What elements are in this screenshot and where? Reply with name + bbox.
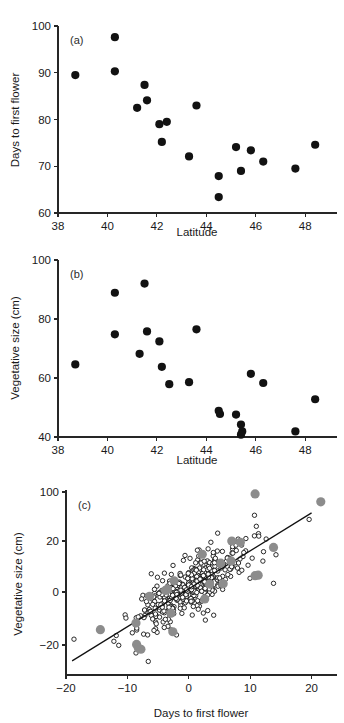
- data-point-open: [163, 617, 167, 621]
- data-point: [216, 410, 224, 418]
- data-point-gray: [236, 538, 245, 547]
- data-point-open: [217, 576, 221, 580]
- y-tick-label: 40: [38, 431, 51, 443]
- data-point: [71, 360, 79, 368]
- data-point-open: [196, 607, 200, 611]
- data-point-open: [202, 559, 206, 563]
- data-point-open: [179, 573, 183, 577]
- data-point-open: [160, 579, 164, 583]
- data-point: [192, 325, 200, 333]
- data-point: [215, 193, 223, 201]
- data-point-gray: [200, 594, 209, 603]
- data-point: [143, 96, 151, 104]
- data-point-open: [170, 593, 174, 597]
- y-tick-label: −20: [39, 639, 59, 651]
- data-point-open: [186, 576, 190, 580]
- data-point: [232, 143, 240, 151]
- data-point: [111, 330, 119, 338]
- data-point: [136, 350, 144, 358]
- data-point-open: [72, 637, 76, 641]
- data-point-open: [189, 599, 193, 603]
- data-point-open: [130, 631, 134, 635]
- data-point-open: [206, 608, 210, 612]
- y-tick-label: 70: [38, 160, 51, 172]
- data-point-open: [188, 556, 192, 560]
- data-point: [185, 378, 193, 386]
- data-point-open: [207, 566, 211, 570]
- data-point-open: [274, 553, 278, 557]
- data-point-open: [201, 611, 205, 615]
- data-point-open: [182, 606, 186, 610]
- panel-a-y-axis-title: Days to first flower: [9, 73, 21, 168]
- data-point-open: [190, 613, 194, 617]
- data-point-open: [112, 639, 116, 643]
- data-point-open: [146, 659, 150, 663]
- panel-c-y-ticks: −20020100: [39, 486, 66, 651]
- data-point-gray: [216, 559, 225, 568]
- x-tick-label: 40: [101, 444, 114, 456]
- data-point: [143, 327, 151, 335]
- data-point: [140, 81, 148, 89]
- y-tick-label: 100: [32, 20, 51, 32]
- data-point-open: [246, 563, 250, 567]
- y-tick-label: 90: [38, 67, 51, 79]
- data-point-open: [206, 547, 210, 551]
- data-point-gray: [145, 592, 154, 601]
- data-point-gray: [316, 497, 325, 506]
- data-point-gray: [254, 571, 263, 580]
- data-point: [237, 421, 245, 429]
- data-point-open: [261, 549, 265, 553]
- data-point: [259, 157, 267, 165]
- data-point-gray: [166, 609, 175, 618]
- data-point: [158, 138, 166, 146]
- panel-a-y-ticks: 60708090100: [32, 20, 58, 219]
- data-point-gray: [169, 576, 178, 585]
- panel-c-svg: −20020100 −20−1001020 (c) Days to first …: [0, 472, 344, 723]
- panel-b-y-ticks: 406080100: [32, 254, 58, 443]
- data-point: [155, 337, 163, 345]
- data-point: [163, 118, 171, 126]
- x-tick-label: −20: [56, 682, 76, 694]
- data-point: [237, 431, 245, 439]
- data-point-open: [254, 524, 258, 528]
- x-tick-label: 42: [151, 220, 164, 232]
- data-point-open: [117, 643, 121, 647]
- data-point-open: [162, 571, 166, 575]
- y-tick-label: 60: [38, 372, 51, 384]
- data-point-open: [220, 549, 224, 553]
- x-tick-label: 48: [299, 444, 312, 456]
- y-tick-label: 60: [38, 207, 51, 219]
- data-point-open: [252, 513, 256, 517]
- data-point-open: [201, 573, 205, 577]
- panel-a-svg: 60708090100 384042444648 (a) Latitude Da…: [0, 0, 344, 240]
- data-point-open: [142, 608, 146, 612]
- data-point-open: [139, 597, 143, 601]
- data-point-open: [191, 604, 195, 608]
- panel-b-tag: (b): [70, 268, 83, 280]
- data-point-open: [152, 628, 156, 632]
- data-point-open: [194, 568, 198, 572]
- x-tick-label: −10: [118, 682, 138, 694]
- data-point-open: [151, 602, 155, 606]
- y-tick-label: 0: [53, 586, 59, 598]
- data-point-open: [235, 566, 239, 570]
- y-tick-label: 20: [46, 535, 59, 547]
- data-point: [259, 379, 267, 387]
- panel-b-x-axis-title: Latitude: [177, 454, 218, 466]
- data-point-gray: [136, 645, 145, 654]
- data-point-open: [184, 599, 188, 603]
- data-point-gray: [251, 489, 260, 498]
- data-point-gray: [219, 579, 228, 588]
- data-point-open: [193, 561, 197, 565]
- data-point: [311, 141, 319, 149]
- y-tick-label: 80: [38, 313, 51, 325]
- x-tick-label: 10: [244, 682, 257, 694]
- data-point-open: [226, 572, 230, 576]
- data-point-gray: [227, 536, 236, 545]
- data-point-open: [183, 553, 187, 557]
- data-point: [165, 380, 173, 388]
- data-point-open: [211, 550, 215, 554]
- data-point-open: [250, 556, 254, 560]
- x-tick-label: 46: [249, 444, 262, 456]
- panel-b-y-axis-title: Vegetative size (cm): [9, 296, 21, 400]
